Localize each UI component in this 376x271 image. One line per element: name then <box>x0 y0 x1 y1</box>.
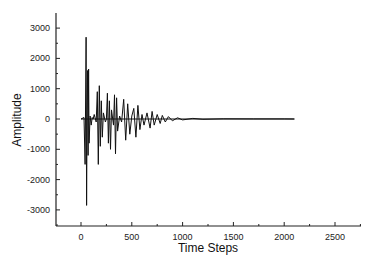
plot-area <box>81 37 294 205</box>
y-tick-label: 0 <box>45 114 50 124</box>
y-tick-label: -2000 <box>27 175 50 185</box>
axis-ticks: 05001000150020002500-3000-2000-100001000… <box>27 23 360 242</box>
y-tick-label: 2000 <box>30 53 50 63</box>
chart: 05001000150020002500-3000-2000-100001000… <box>0 0 376 271</box>
y-tick-label: -3000 <box>27 205 50 215</box>
y-tick-label: -1000 <box>27 144 50 154</box>
x-tick-label: 0 <box>78 232 83 242</box>
x-tick-label: 2000 <box>274 232 294 242</box>
signal-line <box>81 37 294 205</box>
x-tick-label: 2500 <box>325 232 345 242</box>
y-tick-label: 1000 <box>30 84 50 94</box>
y-tick-label: 3000 <box>30 23 50 33</box>
y-axis-label: Amplitude <box>10 93 24 147</box>
x-axis-label: Time Steps <box>178 241 238 255</box>
x-tick-label: 500 <box>124 232 139 242</box>
